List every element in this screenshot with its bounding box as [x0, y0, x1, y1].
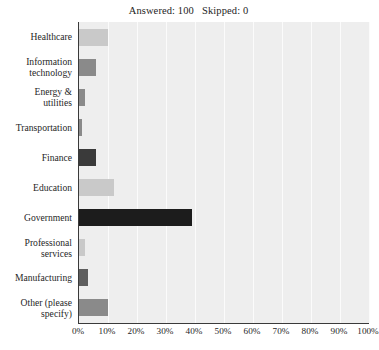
category-label-line: technology	[26, 67, 72, 78]
bar-slot	[79, 233, 369, 263]
category-label-line: Energy &	[35, 86, 72, 97]
bar[interactable]	[79, 59, 96, 76]
category-label-line: Information	[26, 56, 72, 67]
value-axis-labels: 0%10%20%30%40%50%60%70%80%90%100%	[0, 326, 377, 342]
bar[interactable]	[79, 149, 96, 166]
category-label-education: Education	[0, 172, 73, 202]
bar-slot	[79, 82, 369, 112]
x-tick-label-20: 20%	[128, 326, 145, 336]
category-axis-labels: HealthcareInformationtechnologyEnergy &u…	[0, 22, 73, 323]
bar-slot	[79, 263, 369, 293]
x-tick-label-0: 0%	[72, 326, 84, 336]
x-tick-label-50: 50%	[215, 326, 232, 336]
category-label-line: Other (please	[21, 297, 72, 308]
category-label-finance: Finance	[0, 142, 73, 172]
category-label-transportation: Transportation	[0, 112, 73, 142]
category-label-manufacturing: Manufacturing	[0, 263, 73, 293]
category-label-information-technology: Informationtechnology	[0, 52, 73, 82]
bar-slot	[79, 293, 369, 323]
x-tick-label-10: 10%	[99, 326, 116, 336]
bar[interactable]	[79, 29, 108, 46]
category-label-line: Transportation	[16, 122, 72, 133]
bar-slot	[79, 142, 369, 172]
category-label-government: Government	[0, 203, 73, 233]
bar-series	[79, 22, 369, 323]
gridline-100	[369, 22, 370, 323]
bar[interactable]	[79, 179, 114, 196]
x-tick-label-100: 100%	[357, 326, 378, 336]
category-label-line: specify)	[21, 308, 72, 319]
x-tick-label-40: 40%	[186, 326, 203, 336]
category-label-energy-utilities: Energy &utilities	[0, 82, 73, 112]
x-tick-label-60: 60%	[244, 326, 261, 336]
bar-slot	[79, 52, 369, 82]
category-label-other-please-specify: Other (pleasespecify)	[0, 293, 73, 323]
bar[interactable]	[79, 209, 192, 226]
bar[interactable]	[79, 299, 108, 316]
category-label-line: Manufacturing	[15, 272, 72, 283]
bar-slot	[79, 22, 369, 52]
bar[interactable]	[79, 119, 82, 136]
category-label-line: Healthcare	[30, 31, 72, 42]
bar-slot	[79, 172, 369, 202]
bar[interactable]	[79, 89, 85, 106]
category-label-line: services	[25, 248, 72, 259]
x-tick-label-80: 80%	[302, 326, 319, 336]
category-label-line: Professional	[25, 237, 72, 248]
bar-slot	[79, 112, 369, 142]
category-label-line: Education	[33, 182, 72, 193]
category-label-professional-services: Professionalservices	[0, 233, 73, 263]
bar[interactable]	[79, 269, 88, 286]
plot-area	[78, 22, 369, 324]
category-label-line: utilities	[35, 97, 72, 108]
bar-slot	[79, 203, 369, 233]
chart-title: Answered: 100 Skipped: 0	[0, 5, 377, 16]
x-tick-label-30: 30%	[157, 326, 174, 336]
x-tick-label-70: 70%	[273, 326, 290, 336]
category-label-healthcare: Healthcare	[0, 22, 73, 52]
category-label-line: Finance	[42, 152, 72, 163]
x-tick-label-90: 90%	[331, 326, 348, 336]
category-label-line: Government	[24, 212, 72, 223]
bar[interactable]	[79, 239, 85, 256]
